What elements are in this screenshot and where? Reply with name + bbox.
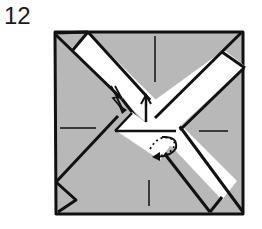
top-left-corner-fold [55,32,88,33]
origami-diagram [0,0,262,229]
